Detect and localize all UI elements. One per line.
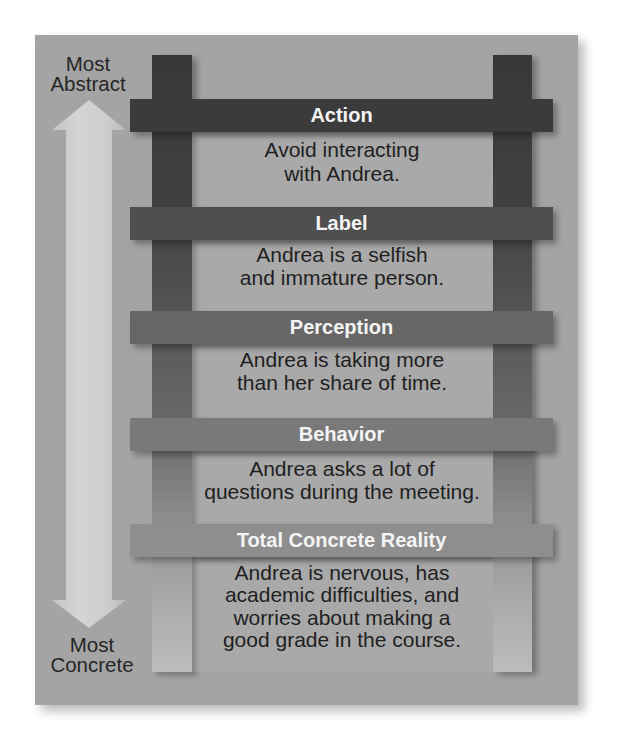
- description-line: questions during the meeting.: [172, 480, 512, 503]
- most-concrete-label-line-2: Concrete: [37, 655, 147, 675]
- most-abstract-label-line-2: Abstract: [33, 74, 143, 94]
- description-perception: Andrea is taking more than her share of …: [172, 348, 512, 394]
- most-concrete-label-line-1: Most: [37, 635, 147, 655]
- most-abstract-label: Most Abstract: [33, 54, 143, 94]
- description-line: worries about making a: [172, 607, 512, 629]
- rung-title-perception: Perception: [130, 311, 553, 344]
- description-total-concrete-reality: Andrea is nervous, has academic difficul…: [172, 562, 512, 651]
- description-line: Avoid interacting: [172, 138, 512, 162]
- rung-title-total-concrete-reality: Total Concrete Reality: [130, 524, 553, 557]
- rung-total-concrete-reality: Total Concrete Reality: [130, 524, 553, 557]
- rung-label: Label: [130, 207, 553, 240]
- description-line: Andrea is nervous, has: [172, 562, 512, 584]
- rung-behavior: Behavior: [130, 418, 553, 451]
- rung-perception: Perception: [130, 311, 553, 344]
- rung-title-action: Action: [130, 99, 553, 132]
- rung-title-behavior: Behavior: [130, 418, 553, 451]
- description-line: than her share of time.: [172, 371, 512, 394]
- description-behavior: Andrea asks a lot of questions during th…: [172, 457, 512, 503]
- description-line: Andrea is taking more: [172, 348, 512, 371]
- description-line: Andrea asks a lot of: [172, 457, 512, 480]
- double-headed-vertical-arrow-icon: [50, 98, 130, 630]
- description-line: good grade in the course.: [172, 629, 512, 651]
- description-line: with Andrea.: [172, 162, 512, 186]
- description-line: Andrea is a selfish: [172, 243, 512, 266]
- description-line: academic difficulties, and: [172, 584, 512, 606]
- rung-action: Action: [130, 99, 553, 132]
- description-line: and immature person.: [172, 266, 512, 289]
- rung-title-label: Label: [130, 207, 553, 240]
- most-concrete-label: Most Concrete: [37, 635, 147, 675]
- description-label: Andrea is a selfish and immature person.: [172, 243, 512, 289]
- description-action: Avoid interacting with Andrea.: [172, 138, 512, 186]
- most-abstract-label-line-1: Most: [33, 54, 143, 74]
